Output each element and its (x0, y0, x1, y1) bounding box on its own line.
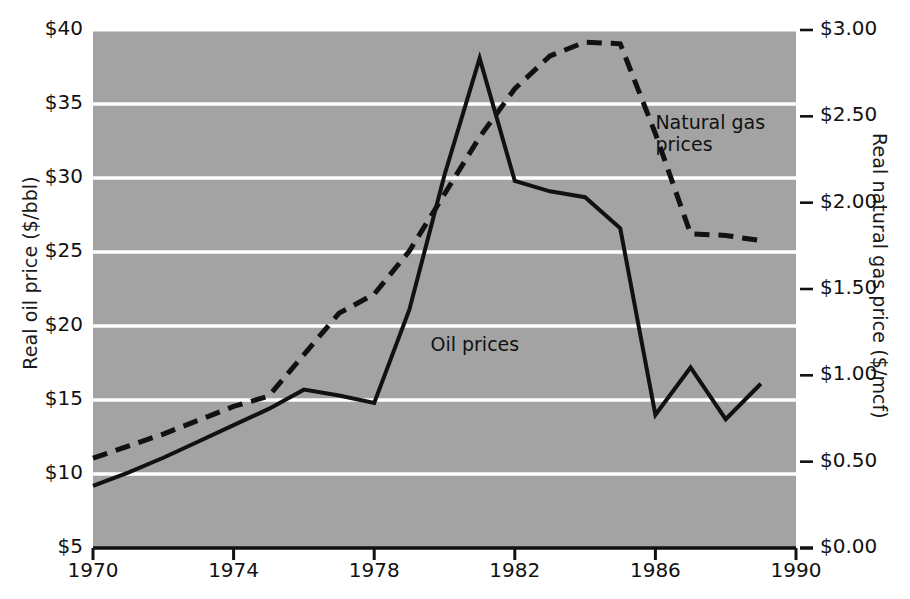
series-annotation: Oil prices (430, 333, 519, 355)
series-annotation: Natural gas prices (655, 111, 765, 156)
plot-background (93, 30, 796, 548)
plot-area (0, 0, 910, 599)
oil-gas-price-chart: Real oil price ($/bbl) Real natural gas … (0, 0, 910, 599)
